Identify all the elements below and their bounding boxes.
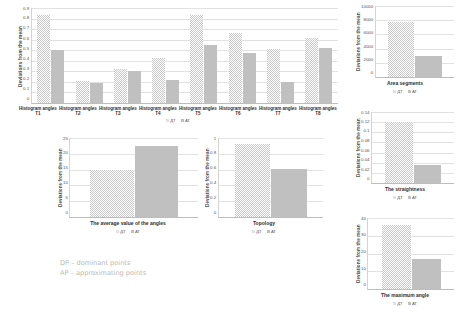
legend-item-at: АТ bbox=[408, 89, 417, 94]
x-tick-label: Histogram angles T7 bbox=[258, 106, 298, 116]
y-tick-label: 10 bbox=[361, 266, 366, 270]
chart-average-value-of-the-angles: Deviations from the mean 2520151050 The … bbox=[58, 138, 198, 234]
x-axis-labels: Histogram angles T1Histogram angles T2Hi… bbox=[18, 106, 338, 116]
plot-canvas bbox=[69, 138, 198, 218]
bar-group bbox=[219, 138, 323, 217]
x-axis-label: Area segments bbox=[356, 80, 454, 86]
y-tick-label: 10 bbox=[63, 181, 68, 185]
legend-label-at: АТ bbox=[185, 118, 190, 123]
y-tick-label: 20 bbox=[63, 151, 68, 155]
bar-dt bbox=[385, 122, 413, 183]
plot-canvas bbox=[371, 112, 454, 184]
legend-label-dt: ДТ bbox=[397, 301, 402, 306]
legend-label-dt: ДТ bbox=[397, 195, 402, 200]
chart-legend: ДТ АТ bbox=[205, 229, 323, 234]
y-tick-label: 6000 bbox=[363, 31, 373, 35]
y-tick-label: 30 bbox=[361, 233, 366, 237]
bar-dt bbox=[190, 15, 203, 103]
x-axis-label: The average value of the angles bbox=[58, 220, 198, 226]
legend-item-dt: ДТ bbox=[116, 229, 126, 234]
legend-swatch-at bbox=[267, 230, 270, 233]
y-tick-label: 0.14 bbox=[361, 111, 370, 115]
legend-swatch-dt bbox=[116, 230, 119, 233]
x-tick-label: Histogram angles T1 bbox=[18, 106, 58, 116]
y-tick-label: 0.9 bbox=[23, 7, 29, 11]
y-tick-label: 0.1 bbox=[363, 129, 369, 133]
y-axis-ticks: 1000080006000400020000 bbox=[361, 6, 375, 78]
bar-groups bbox=[70, 138, 198, 217]
y-tick-label: 25 bbox=[63, 137, 68, 141]
chart-legend: ДТ АТ bbox=[356, 195, 454, 200]
legend-label-at: АТ bbox=[412, 89, 417, 94]
x-tick-label: Histogram angles T8 bbox=[298, 106, 338, 116]
footnote-line-dp: DP – dominant points bbox=[60, 258, 146, 268]
legend-item-dt: ДТ bbox=[393, 195, 403, 200]
y-tick-label: 0.8 bbox=[210, 151, 216, 155]
bar-dt bbox=[114, 69, 127, 103]
legend-label-at: АТ bbox=[412, 195, 417, 200]
bar-dt bbox=[90, 170, 133, 217]
legend-item-at: АТ bbox=[408, 301, 417, 306]
bar-at bbox=[166, 80, 179, 103]
chart-histogram-angles: Deviations from the mean 0.90.80.70.60.5… bbox=[18, 8, 338, 123]
bar-group bbox=[261, 8, 299, 103]
bar-dt bbox=[388, 22, 415, 77]
y-tick-label: 0.6 bbox=[210, 166, 216, 170]
bar-at bbox=[90, 83, 103, 103]
y-tick-label: 0 bbox=[27, 97, 29, 101]
legend-swatch-at bbox=[181, 119, 184, 122]
y-tick-label: 0 bbox=[214, 211, 216, 215]
y-axis-label: Deviations from the mean bbox=[356, 6, 361, 78]
legend-footnote: DP – dominant points AP – approximating … bbox=[60, 258, 146, 278]
y-tick-label: 0.2 bbox=[210, 196, 216, 200]
plot-area: Deviations from the mean 100008000600040… bbox=[356, 6, 454, 78]
y-tick-label: 0.08 bbox=[361, 139, 370, 143]
bar-at bbox=[414, 165, 442, 183]
plot-area: Deviations from the mean 2520151050 bbox=[58, 138, 198, 218]
bar-group bbox=[147, 8, 185, 103]
chart-legend: ДТ АТ bbox=[58, 229, 198, 234]
y-tick-label: 20 bbox=[361, 250, 366, 254]
legend-item-dt: ДТ bbox=[393, 301, 403, 306]
plot-canvas bbox=[375, 6, 454, 78]
bar-group bbox=[223, 8, 261, 103]
y-tick-label: 1 bbox=[214, 137, 216, 141]
bar-at bbox=[135, 146, 178, 217]
y-tick-label: 0 bbox=[65, 211, 67, 215]
plot-area: Deviations from the mean 0.90.80.70.60.5… bbox=[18, 8, 338, 104]
bar-groups bbox=[372, 112, 454, 183]
legend-item-at: АТ bbox=[131, 229, 140, 234]
y-tick-label: 0.6 bbox=[23, 36, 29, 40]
y-tick-label: 4000 bbox=[363, 44, 373, 48]
legend-label-dt: ДТ bbox=[170, 118, 175, 123]
legend-label-dt: ДТ bbox=[256, 229, 261, 234]
y-tick-label: 0.12 bbox=[361, 119, 370, 123]
plot-canvas bbox=[31, 8, 338, 104]
bar-groups bbox=[32, 8, 338, 103]
legend-item-at: АТ bbox=[267, 229, 276, 234]
bar-group bbox=[376, 6, 454, 77]
chart-legend: ДТ АТ bbox=[18, 118, 338, 123]
legend-label-dt: ДТ bbox=[120, 229, 125, 234]
y-tick-label: 15 bbox=[63, 166, 68, 170]
legend-swatch-dt bbox=[393, 90, 396, 93]
y-axis-ticks: 0.90.80.70.60.50.40.30.20.10 bbox=[23, 8, 31, 104]
chart-topology: Deviations from the mean 10.80.60.40.20 … bbox=[205, 138, 323, 234]
bar-at bbox=[281, 82, 294, 103]
bar-at bbox=[128, 71, 141, 103]
legend-swatch-dt bbox=[252, 230, 255, 233]
bar-at bbox=[51, 50, 64, 103]
bar-at bbox=[243, 53, 256, 103]
y-tick-label: 0.04 bbox=[361, 158, 370, 162]
legend-item-dt: ДТ bbox=[393, 89, 403, 94]
x-tick-label: Histogram angles T6 bbox=[218, 106, 258, 116]
bar-group bbox=[368, 218, 454, 289]
legend-swatch-dt bbox=[166, 119, 169, 122]
legend-label-dt: ДТ bbox=[397, 89, 402, 94]
bar-dt bbox=[229, 33, 242, 103]
y-tick-label: 5 bbox=[65, 196, 67, 200]
chart-area-segments: Deviations from the mean 100008000600040… bbox=[356, 6, 454, 94]
bar-groups bbox=[376, 6, 454, 77]
legend-label-at: АТ bbox=[135, 229, 140, 234]
plot-area: Deviations from the mean 403020100 bbox=[356, 218, 454, 290]
